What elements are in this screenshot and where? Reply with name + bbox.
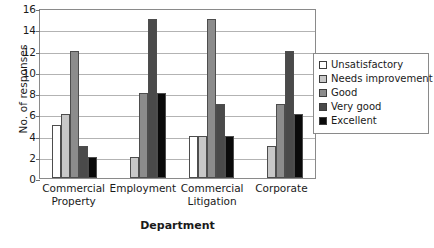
legend-label: Needs improvement (331, 74, 433, 84)
bar (88, 157, 97, 178)
bar (258, 177, 267, 178)
legend-item[interactable]: Needs improvement (319, 72, 423, 86)
x-tick-label: CommercialProperty (39, 182, 108, 218)
bar (198, 136, 207, 179)
bar-group (258, 10, 303, 178)
legend-item[interactable]: Very good (319, 100, 423, 114)
bar (148, 19, 157, 178)
y-axis-tick-labels: 0246810121416 (14, 9, 36, 179)
bar (79, 146, 88, 178)
legend-label: Excellent (331, 116, 377, 126)
legend-swatch-icon (319, 103, 327, 111)
y-tick-label: 4 (29, 131, 36, 142)
legend-swatch-icon (319, 117, 327, 125)
bar-group (189, 10, 234, 178)
legend: UnsatisfactoryNeeds improvementGoodVery … (313, 53, 429, 134)
bar (139, 93, 148, 178)
bar (294, 114, 303, 178)
y-tick-label: 2 (29, 153, 36, 164)
bar (207, 19, 216, 178)
y-axis-tickmark (36, 180, 40, 181)
bar-group (121, 10, 166, 178)
legend-item[interactable]: Good (319, 86, 423, 100)
bar (189, 136, 198, 179)
bar (285, 51, 294, 179)
bar (157, 93, 166, 178)
y-tick-label: 10 (23, 68, 36, 79)
legend-item[interactable]: Unsatisfactory (319, 58, 423, 72)
bar (52, 125, 61, 178)
legend-swatch-icon (319, 75, 327, 83)
legend-swatch-icon (319, 89, 327, 97)
legend-swatch-icon (319, 61, 327, 69)
legend-label: Very good (331, 102, 381, 112)
plot-area (39, 9, 316, 179)
bar (225, 136, 234, 179)
y-tick-label: 14 (23, 25, 36, 36)
x-axis-tick-labels: CommercialPropertyEmploymentCommercialLi… (39, 182, 316, 218)
bar (121, 177, 130, 178)
y-tick-label: 12 (23, 46, 36, 57)
x-tick-label: Employment (108, 182, 177, 218)
bars-layer (40, 10, 315, 178)
legend-item[interactable]: Excellent (319, 114, 423, 128)
bar (276, 104, 285, 178)
y-tick-label: 6 (29, 110, 36, 121)
bar-group (52, 10, 97, 178)
bar (130, 157, 139, 178)
y-tick-label: 8 (29, 89, 36, 100)
x-tick-label: CommercialLitigation (178, 182, 247, 218)
x-tick-label: Corporate (247, 182, 316, 218)
y-tick-label: 16 (23, 4, 36, 15)
legend-label: Good (331, 88, 357, 98)
bar (61, 114, 70, 178)
bar-chart: No. of responses 0246810121416 Commercia… (0, 0, 434, 248)
bar (70, 51, 79, 179)
legend-label: Unsatisfactory (331, 60, 403, 70)
bar (216, 104, 225, 178)
y-tick-label: 0 (29, 174, 36, 185)
bar (267, 146, 276, 178)
x-axis-title: Department (39, 219, 316, 232)
